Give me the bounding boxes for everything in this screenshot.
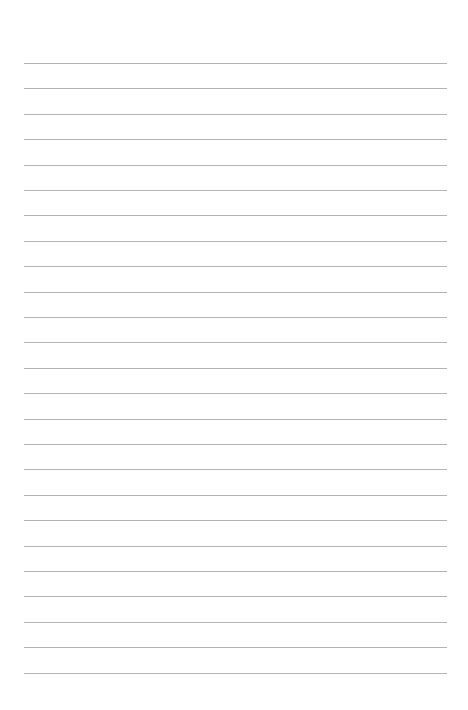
ruled-line [24, 292, 447, 293]
ruled-line [24, 368, 447, 369]
ruled-line [24, 139, 447, 140]
ruled-line [24, 622, 447, 623]
ruled-line [24, 215, 447, 216]
ruled-line [24, 317, 447, 318]
ruled-line [24, 419, 447, 420]
ruled-line [24, 469, 447, 470]
ruled-line [24, 647, 447, 648]
ruled-line [24, 266, 447, 267]
ruled-line [24, 190, 447, 191]
ruled-line [24, 673, 447, 674]
ruled-line [24, 520, 447, 521]
ruled-line [24, 444, 447, 445]
ruled-line [24, 571, 447, 572]
ruled-line [24, 165, 447, 166]
ruled-line [24, 495, 447, 496]
ruled-line [24, 546, 447, 547]
ruled-line [24, 596, 447, 597]
lined-paper-page [0, 0, 468, 710]
ruled-line [24, 63, 447, 64]
ruled-line [24, 88, 447, 89]
ruled-line [24, 393, 447, 394]
ruled-line [24, 241, 447, 242]
ruled-line [24, 342, 447, 343]
ruled-line [24, 114, 447, 115]
